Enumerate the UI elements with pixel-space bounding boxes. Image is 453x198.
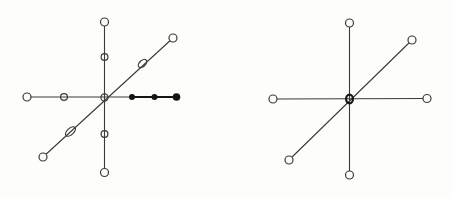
figure-canvas [0, 0, 453, 198]
open-circle-marker [39, 153, 47, 161]
open-circle-marker [101, 18, 109, 26]
open-circle-marker [169, 34, 177, 42]
filled-dot-marker [129, 94, 135, 100]
open-circle-marker [285, 156, 293, 164]
open-circle-marker [23, 93, 31, 101]
open-circle-marker [408, 36, 416, 44]
slanted-open-ellipse-marker [137, 58, 148, 69]
open-circle-marker [101, 169, 109, 177]
scanned-figure-page [0, 0, 453, 198]
filled-dot-marker [173, 93, 181, 101]
filled-dot-marker [152, 94, 158, 100]
open-circle-marker [346, 19, 354, 27]
left-star-figure [23, 18, 180, 177]
right-star-figure [269, 19, 431, 179]
open-circle-marker [269, 95, 277, 103]
arm-line [289, 40, 412, 160]
open-circle-marker [346, 171, 354, 179]
open-circle-marker [423, 95, 431, 103]
